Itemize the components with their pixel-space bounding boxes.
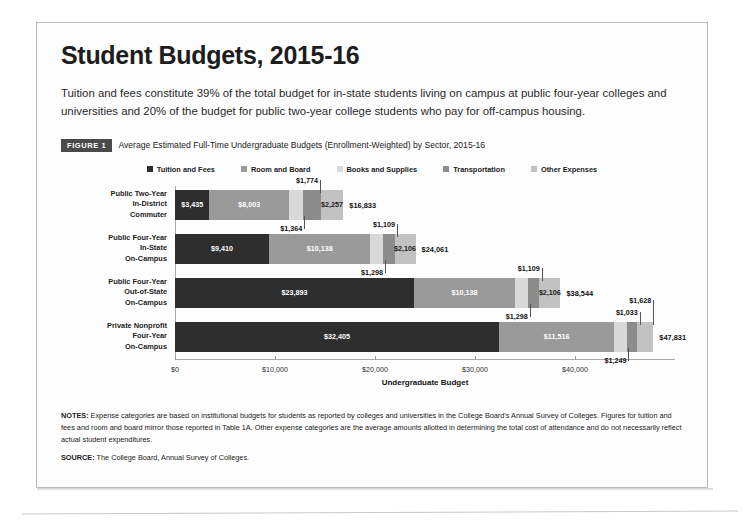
bar-segment[interactable] — [289, 190, 303, 220]
x-axis-tick — [175, 356, 176, 360]
bar-category-label: Public Two-YearIn-DistrictCommuter — [110, 189, 167, 221]
bar-segment[interactable]: $11,516 — [499, 322, 614, 352]
x-axis-tick-label: $0 — [171, 365, 179, 374]
stacked-bar[interactable]: $32,405$11,516 — [175, 322, 653, 352]
legend-item-transportation[interactable]: Transportation — [443, 165, 505, 174]
bar-segment[interactable]: $10,138 — [269, 234, 370, 264]
bar-segment[interactable]: $9,410 — [175, 234, 269, 264]
segment-callout-label: $1,298 — [337, 268, 383, 277]
stacked-bar[interactable]: $9,410$10,138$2,106 — [175, 234, 416, 264]
segment-value-label: $8,003 — [238, 200, 260, 209]
figure-caption-text: Average Estimated Full-Time Undergraduat… — [118, 140, 485, 150]
bar-segment[interactable]: $2,257 — [321, 190, 344, 220]
callout-leader-line — [640, 312, 641, 325]
bar-segment[interactable] — [515, 278, 528, 308]
legend-item-tuition-and-fees[interactable]: Tuition and Fees — [147, 165, 215, 174]
segment-value-label: $32,405 — [324, 332, 350, 341]
callout-value: $1,109 — [373, 220, 395, 229]
segment-callout-label: $1,109 — [349, 220, 395, 229]
bar-total-label: $24,061 — [422, 244, 449, 253]
bar-category-line: Out-of-State — [108, 288, 167, 299]
bar-segment[interactable]: $2,106 — [539, 278, 560, 308]
bar-category-line: Four-Year — [107, 332, 167, 343]
x-axis-tick-label: $10,000 — [262, 365, 288, 374]
bar-category-line: Private Nonprofit — [107, 321, 167, 332]
x-axis-tick-label: $20,000 — [362, 365, 388, 374]
callout-leader-line — [628, 348, 629, 361]
bar-category-line: Public Four-Year — [108, 233, 167, 244]
segment-value-label: $2,106 — [539, 288, 561, 297]
x-axis-tick — [475, 356, 476, 360]
segment-callout-label: $1,298 — [482, 312, 528, 321]
callout-leader-line — [304, 216, 305, 229]
segment-value-label: $11,516 — [544, 332, 570, 341]
bar-segment[interactable]: $3,435 — [175, 190, 209, 220]
callout-value: $1,298 — [506, 312, 528, 321]
bar-category-line: On-Campus — [108, 254, 167, 265]
notes-text: Expense categories are based on institut… — [61, 411, 681, 444]
chart-bar-row: Public Four-YearOut-of-StateOn-Campus$23… — [175, 278, 675, 308]
callout-value: $1,364 — [280, 224, 302, 233]
x-axis-tick — [575, 356, 576, 360]
stacked-bar[interactable]: $3,435$8,003$2,257 — [175, 190, 343, 220]
callout-leader-line — [653, 300, 654, 325]
bar-category-line: Commuter — [110, 210, 167, 221]
bar-total-label: $47,831 — [659, 332, 686, 341]
legend-label: Books and Supplies — [347, 165, 418, 174]
bar-category-line: Public Four-Year — [108, 277, 167, 288]
callout-leader-line — [397, 224, 398, 237]
chart-bar-row: Private NonprofitFour-YearOn-Campus$32,4… — [175, 322, 675, 352]
bar-category-label: Public Four-YearIn-StateOn-Campus — [108, 233, 167, 265]
legend-item-other-expenses[interactable]: Other Expenses — [531, 165, 597, 174]
callout-value: $1,109 — [518, 264, 540, 273]
callout-value: $1,249 — [604, 356, 626, 365]
bar-category-label: Public Four-YearOut-of-StateOn-Campus — [108, 277, 167, 309]
figure-caption-row: FIGURE 1 Average Estimated Full-Time Und… — [61, 139, 683, 152]
legend-label: Room and Board — [251, 165, 311, 174]
segment-callout-label: $1,364 — [256, 224, 302, 233]
bar-segment[interactable] — [614, 322, 626, 352]
notes-label: NOTES: — [61, 411, 89, 420]
chart-bar-row: Public Two-YearIn-DistrictCommuter$3,435… — [175, 190, 675, 220]
stacked-bar[interactable]: $23,893$10,138$2,106 — [175, 278, 560, 308]
segment-value-label: $3,435 — [181, 200, 203, 209]
legend-item-books-and-supplies[interactable]: Books and Supplies — [337, 165, 418, 174]
footnotes: NOTES: Expense categories are based on i… — [61, 410, 683, 464]
bar-category-line: Public Two-Year — [110, 189, 167, 200]
bar-segment[interactable]: $2,106 — [395, 234, 416, 264]
bar-segment[interactable]: $8,003 — [209, 190, 289, 220]
page-shadow — [37, 488, 713, 491]
source-paragraph: SOURCE: The College Board, Annual Survey… — [61, 452, 683, 464]
bar-segment[interactable]: $23,893 — [175, 278, 414, 308]
callout-leader-line — [320, 180, 321, 193]
callout-leader-line — [542, 268, 543, 281]
callout-value: $1,774 — [296, 176, 318, 185]
x-axis-tick — [375, 356, 376, 360]
x-axis-title: Undergraduate Budget — [175, 378, 675, 387]
segment-value-label: $10,138 — [452, 288, 478, 297]
legend-swatch-icon — [443, 166, 449, 172]
bar-category-line: In-District — [110, 200, 167, 211]
legend-swatch-icon — [241, 166, 247, 172]
report-page: Student Budgets, 2015-16 Tuition and fee… — [36, 22, 708, 488]
segment-value-label: $10,138 — [307, 244, 333, 253]
legend-item-room-and-board[interactable]: Room and Board — [241, 165, 311, 174]
notes-paragraph: NOTES: Expense categories are based on i… — [61, 410, 683, 445]
legend-swatch-icon — [337, 166, 343, 172]
legend-label: Tuition and Fees — [157, 165, 215, 174]
x-axis-tick — [275, 356, 276, 360]
bar-segment[interactable] — [637, 322, 653, 352]
source-text: The College Board, Annual Survey of Coll… — [97, 453, 250, 462]
intro-paragraph: Tuition and fees constitute 39% of the t… — [61, 84, 671, 121]
segment-callout-label: $1,628 — [605, 296, 651, 305]
bar-segment[interactable] — [370, 234, 383, 264]
callout-leader-line — [385, 260, 386, 273]
bar-segment[interactable]: $10,138 — [414, 278, 515, 308]
bar-category-line: On-Campus — [108, 298, 167, 309]
bar-segment[interactable]: $32,405 — [175, 322, 499, 352]
bar-segment[interactable] — [303, 190, 321, 220]
segment-value-label: $23,893 — [281, 288, 307, 297]
chart-bar-row: Public Four-YearIn-StateOn-Campus$9,410$… — [175, 234, 675, 264]
bar-total-label: $16,833 — [349, 200, 376, 209]
plot-area: Public Two-YearIn-DistrictCommuter$3,435… — [175, 186, 683, 360]
